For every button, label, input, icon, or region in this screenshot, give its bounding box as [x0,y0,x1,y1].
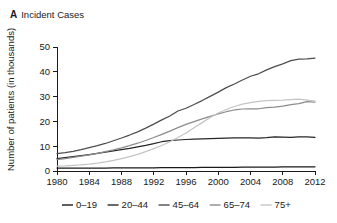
figure-panel-a: AIncident Cases Number of patients (in t… [0,0,337,223]
y-tick-label: 40 [39,66,50,77]
series-line-20-44 [57,137,315,159]
x-tick-label: 2000 [208,176,229,187]
x-tick-label: 1988 [111,176,132,187]
series-line-0-19 [57,167,315,168]
chart-legend: 0–1920–4445–6465–7475+ [62,199,291,210]
y-tick-label: 20 [39,116,50,127]
legend-label-45–64: 45–64 [173,199,199,210]
x-tick-label: 1996 [175,176,196,187]
y-tick-label: 10 [39,141,50,152]
y-axis-label: Number of patients (in thousands) [5,28,16,171]
y-axis-ticks: 01020304050 [39,41,57,176]
x-tick-label: 2012 [304,176,325,187]
x-tick-label: 1984 [79,176,100,187]
series-group [57,58,315,168]
x-tick-label: 1980 [46,176,67,187]
x-tick-label: 2004 [240,176,261,187]
legend-label-20–44: 20–44 [122,199,148,210]
legend-label-0–19: 0–19 [76,199,97,210]
series-line-75+ [57,99,315,166]
y-tick-label: 50 [39,41,50,52]
line-chart: Number of patients (in thousands) 010203… [0,0,337,223]
y-tick-label: 0 [45,165,50,176]
series-line-65-74 [57,102,315,160]
x-tick-label: 2008 [272,176,293,187]
x-axis-ticks: 198019841988199219962000200420082012 [46,171,325,187]
legend-label-65–74: 65–74 [224,199,250,210]
legend-label-75+: 75+ [275,199,292,210]
y-tick-label: 30 [39,91,50,102]
x-tick-label: 1992 [143,176,164,187]
